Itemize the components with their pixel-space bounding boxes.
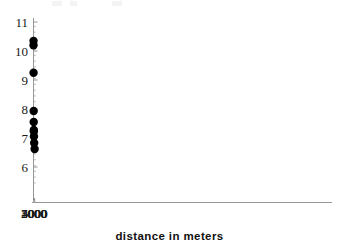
y-tick-label: 11 (15, 15, 28, 30)
data-series: 70, 10.2160, 10.35355, 9.25745, 7.93960,… (29, 37, 39, 154)
x-axis-ticks (34, 199, 35, 203)
data-point: 960, 7.55 (30, 118, 38, 126)
y-tick-label: 9 (22, 73, 29, 88)
y-tick-label: 6 (22, 160, 29, 175)
data-point: 4980, 6.62 (30, 145, 38, 153)
data-point: 160, 10.35 (29, 37, 37, 45)
plot-svg: 67891011 10002000300040005000 70, 10.216… (0, 0, 339, 246)
y-tick-label: 8 (22, 102, 29, 117)
y-tick-label: 10 (15, 44, 28, 59)
y-tick-label: 7 (22, 131, 29, 146)
data-point: 745, 7.93 (29, 107, 37, 115)
scatter-plot: 67891011 10002000300040005000 70, 10.216… (0, 0, 339, 246)
x-tick-label: 5000 (22, 206, 48, 221)
x-axis-title: distance in meters (115, 230, 223, 242)
x-axis-tick-labels: 10002000300040005000 (21, 206, 48, 221)
y-axis-tick-labels: 67891011 (15, 15, 29, 175)
figure-canvas: 67891011 10002000300040005000 70, 10.216… (0, 0, 339, 246)
data-point: 355, 9.25 (29, 69, 37, 77)
